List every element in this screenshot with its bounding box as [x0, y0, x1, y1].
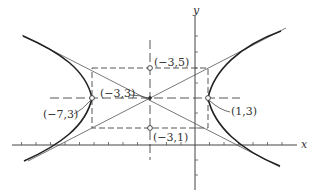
y-axis-label: y	[192, 4, 200, 17]
x-axis-label: x	[301, 138, 308, 151]
hyperbola-left-branch	[23, 36, 92, 161]
point-top	[148, 66, 153, 71]
point-vertex-left	[90, 96, 95, 101]
hyperbola-figure: x y	[0, 0, 319, 196]
label-top-point: (−3,5)	[154, 56, 189, 69]
hyperbola	[23, 31, 281, 166]
leader-right-vertex	[210, 101, 230, 112]
label-left-vertex: (−7,3)	[43, 108, 78, 121]
point-bottom	[148, 126, 153, 131]
label-bottom-point: (−3,1)	[153, 131, 188, 144]
hyperbola-right-branch	[208, 31, 281, 166]
point-center	[149, 97, 152, 100]
point-vertex-right	[206, 96, 211, 101]
label-right-vertex: (1,3)	[231, 105, 257, 118]
asymptote-negative-slope	[22, 35, 280, 167]
label-center: (−3,3)	[100, 87, 135, 100]
y-axis	[195, 16, 198, 190]
